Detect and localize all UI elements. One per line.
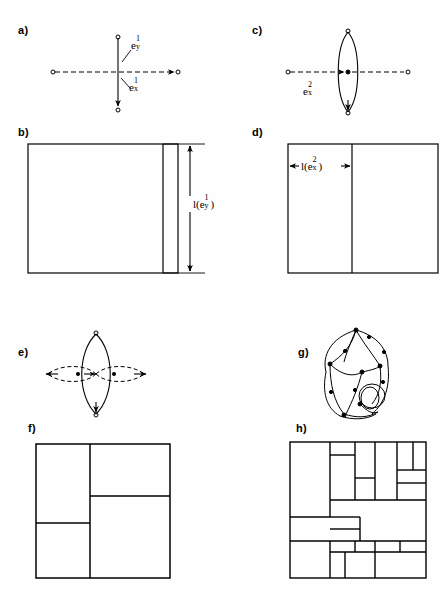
edge-label-ex1-indices: 1x [134, 80, 140, 91]
panel-e-graph [46, 331, 146, 417]
panel-g-graph [325, 328, 389, 419]
edge-label-ey1: e1y [131, 38, 142, 51]
panel-g-edge-mid-east [362, 366, 380, 372]
panel-g-tick-2 [382, 350, 385, 353]
panel-g-edge-loop-tail [360, 404, 378, 413]
panel-label-b: b) [18, 126, 29, 138]
vertex-left-c [286, 70, 290, 74]
panel-f-outer-square [36, 444, 170, 578]
panel-g-tick-5 [353, 388, 356, 391]
panel-e-lobe-right-top [96, 367, 144, 375]
vertex-top-c [346, 29, 350, 33]
vertex-bottom-e [94, 413, 98, 417]
panel-g-tick-1 [367, 335, 370, 338]
panel-g-edge-lower-east [372, 366, 381, 404]
dimension-label-lex2-indices: 2x [313, 159, 319, 170]
panel-b-outer-square [28, 144, 178, 273]
panel-h-dissection [290, 442, 426, 578]
panel-g-edge-base [344, 412, 378, 417]
panel-label-d: d) [252, 126, 263, 138]
edge-label-ex1: e1x [129, 80, 140, 93]
panel-h-outer-square [290, 442, 426, 578]
panel-f-dissection [36, 444, 170, 578]
panel-label-e: e) [18, 346, 28, 358]
panel-g-edge-outer-nw [325, 330, 356, 372]
panel-g-tick-4 [329, 390, 332, 393]
dimension-label-ley1-close: ) [211, 198, 215, 210]
panel-g-edge-outer-ne [356, 330, 388, 366]
panel-b-dissection [28, 144, 205, 273]
vertex-right-cross-e [112, 372, 116, 376]
panel-e-lobe-left-top [48, 367, 96, 375]
panel-label-f: f) [28, 422, 36, 434]
panel-g-vertex-top [354, 328, 358, 332]
panel-g-tick-3 [343, 349, 346, 352]
vertex-right-a [176, 70, 180, 74]
figure-canvas: a) b) c) d) e) f) g) h) e1y e1x l(e1y) e… [0, 0, 441, 593]
panel-g-tick-6 [381, 380, 384, 383]
panel-e-arc-left [82, 334, 96, 414]
vertex-bottom-a [116, 108, 120, 112]
edge-ex2-arc-left [338, 32, 348, 112]
panel-label-c: c) [252, 24, 262, 36]
dimension-label-ley1-open: l(e [193, 198, 205, 210]
dimension-label-ley1-indices: 1y [205, 197, 211, 208]
panel-e-lobe-right-bottom [96, 374, 144, 382]
panel-g-vertex-east [378, 364, 382, 368]
vertex-bottom-c [346, 111, 350, 115]
panel-g-edge-base-2 [340, 414, 376, 419]
panel-g-edge-outer-se [372, 366, 388, 414]
dimension-label-ley1: l(e1y) [193, 197, 214, 210]
edge-label-ex2: e2x [303, 84, 314, 97]
panel-g-edge-apex-east [356, 330, 380, 366]
dimension-label-lex2-close: ) [319, 160, 323, 172]
edge-label-ey1-indices: 1y [136, 38, 142, 49]
panel-g-vertex-bottom [342, 413, 346, 417]
panel-label-h: h) [296, 422, 307, 434]
panel-c-graph [286, 29, 410, 115]
panel-a-graph [51, 35, 180, 112]
dimension-label-lex2-open: l(e [301, 160, 313, 172]
vertex-top-e [94, 331, 98, 335]
vertex-center-c [346, 70, 350, 74]
vertex-right-c [406, 70, 410, 74]
vertex-left-cross-e [76, 372, 80, 376]
panel-label-a: a) [18, 24, 28, 36]
panel-g-edge-apex-mid [344, 330, 356, 362]
panel-g-vertex-loop [358, 402, 362, 406]
panel-g-vertex-west [328, 362, 332, 366]
panel-g-loop-inner [361, 387, 379, 409]
edge-ex2-arc-right [348, 32, 358, 112]
panel-g-edge-lower-mid [346, 372, 362, 414]
panel-g-edge-mid-lower [330, 364, 362, 375]
figure-vector-layer [0, 0, 441, 593]
vertex-top-a [116, 35, 120, 39]
panel-g-edge-lower-west [330, 364, 344, 414]
dimension-label-lex2: l(e2x) [301, 159, 322, 172]
panel-e-lobe-left-bottom [48, 374, 96, 382]
panel-e-arc-right [96, 334, 110, 414]
panel-g-loop-outer [359, 384, 385, 408]
panel-g-edge-apex-west [330, 330, 356, 364]
panel-g-vertex-center [360, 370, 364, 374]
edge-label-ex2-indices: 2x [308, 84, 314, 95]
vertex-left-a [51, 70, 55, 74]
leader-ey1 [122, 50, 131, 62]
panel-g-edge-outer-sw [325, 372, 340, 416]
panel-label-g: g) [298, 346, 309, 358]
